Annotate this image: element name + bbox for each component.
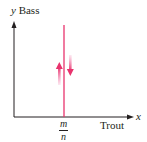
denominator-n: n — [61, 132, 66, 142]
x-axis-arrowhead-icon — [127, 115, 134, 120]
m-over-n-label: m n — [59, 119, 68, 142]
up-arrow-icon — [56, 62, 63, 85]
x-variable: x — [136, 111, 141, 122]
y-axis-label: y Bass — [11, 5, 39, 16]
down-arrow-icon — [67, 55, 74, 76]
numerator-m: m — [60, 119, 67, 129]
y-variable: y — [11, 4, 16, 16]
y-axis — [12, 21, 17, 117]
diagram-canvas — [0, 0, 147, 142]
y-axis-arrowhead-icon — [12, 21, 17, 28]
x-axis-title: Trout — [100, 120, 124, 131]
y-axis-title: Bass — [19, 4, 40, 16]
